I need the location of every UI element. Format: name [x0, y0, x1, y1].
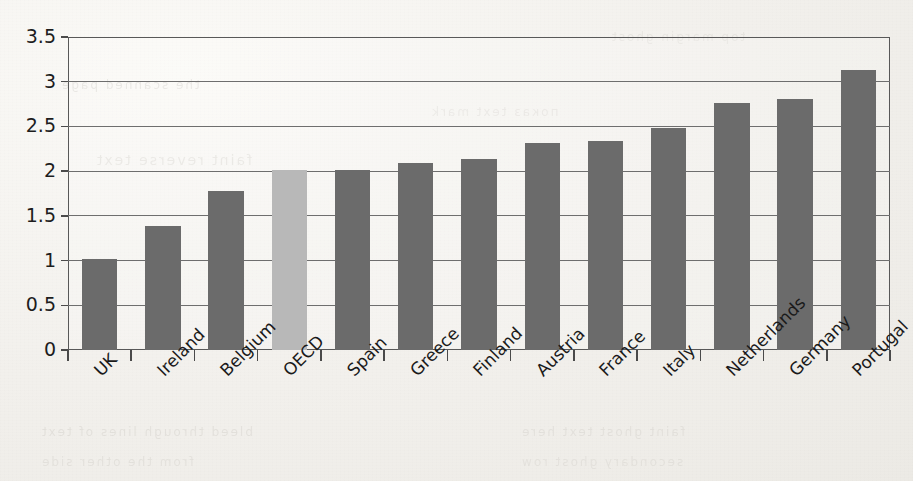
- scanned-chart-page: the scanned page faint reverse text пока…: [0, 0, 913, 481]
- bar-oecd[interactable]: [272, 170, 307, 350]
- bar-belgium[interactable]: [208, 191, 243, 350]
- bar-ireland[interactable]: [145, 226, 180, 350]
- y-axis-tick-mark: [61, 215, 68, 217]
- x-axis-tick-mark: [700, 350, 702, 361]
- y-axis-tick-mark: [61, 170, 68, 172]
- y-axis-tick-mark: [61, 81, 68, 83]
- y-axis-tick-label: 1: [44, 251, 56, 270]
- bar-chart: 00.511.522.533.5 UKIrelandBelgiumOECDSpa…: [0, 0, 913, 481]
- bar-austria[interactable]: [525, 143, 560, 350]
- y-axis-tick-mark: [61, 36, 68, 38]
- y-axis-tick-mark: [61, 305, 68, 307]
- y-axis-tick-label: 0: [44, 340, 56, 359]
- x-axis-tick-mark: [130, 350, 132, 361]
- bar-netherlands[interactable]: [714, 103, 749, 350]
- bar-series: [68, 37, 890, 350]
- bar-portugal[interactable]: [841, 70, 876, 350]
- y-axis-tick-label: 2.5: [26, 116, 56, 135]
- x-axis-origin-tick: [67, 350, 69, 361]
- x-axis-label-uk: UK: [90, 349, 121, 380]
- bar-finland[interactable]: [461, 159, 496, 350]
- bar-uk[interactable]: [82, 259, 117, 350]
- bar-spain[interactable]: [335, 170, 370, 350]
- bar-italy[interactable]: [651, 128, 686, 350]
- y-axis-tick-mark: [61, 260, 68, 262]
- y-axis-tick-label: 3: [44, 72, 56, 91]
- y-axis-tick-label: 3.5: [26, 27, 56, 46]
- bar-greece[interactable]: [398, 163, 433, 350]
- y-axis-tick-label: 2: [44, 161, 56, 180]
- bar-france[interactable]: [588, 141, 623, 350]
- y-axis-tick-label: 0.5: [26, 295, 56, 314]
- y-axis-tick-label: 1.5: [26, 206, 56, 225]
- y-axis-tick-mark: [61, 126, 68, 128]
